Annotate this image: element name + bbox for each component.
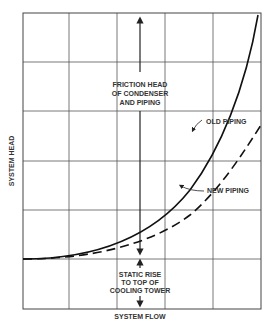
new-piping-label: NEW PIPING <box>207 187 250 194</box>
grid <box>23 13 261 309</box>
friction-label-1: FRICTION HEAD <box>113 81 168 88</box>
old-piping-leader <box>193 120 202 130</box>
y-axis-label: SYSTEM HEAD <box>8 136 15 187</box>
static-label-1: STATIC RISE <box>119 271 162 278</box>
static-label-2: TO TOP OF <box>121 279 159 286</box>
friction-label-2: OF CONDENSER <box>112 90 168 97</box>
static-label-3: COOLING TOWER <box>110 287 171 294</box>
x-axis-label: SYSTEM FLOW <box>114 313 166 320</box>
old-piping-label: OLD PIPING <box>206 118 247 125</box>
system-head-chart: FRICTION HEAD OF CONDENSER AND PIPING ST… <box>0 0 274 328</box>
friction-label-3: AND PIPING <box>120 99 161 106</box>
